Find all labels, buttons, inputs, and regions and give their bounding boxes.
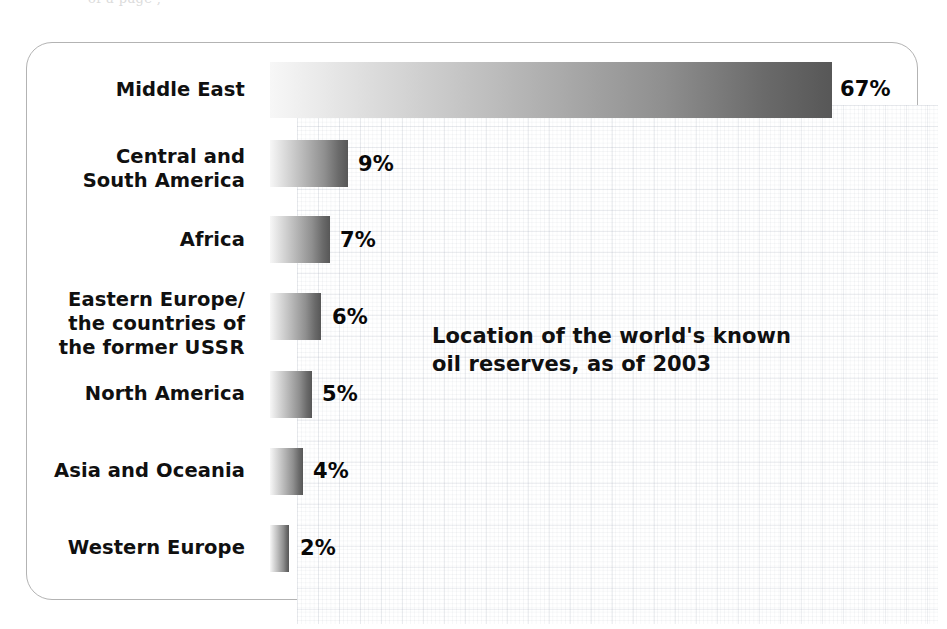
bar-value-label: 9% [358,152,394,176]
bar-value-label: 4% [313,459,349,483]
category-label: Eastern Europe/ the countries of the for… [0,288,245,360]
clipped-page-text: of a page , [0,0,947,7]
chart-annotation: Location of the world's known oil reserv… [432,322,852,378]
bar [270,525,289,572]
bar [270,62,832,118]
bar [270,293,321,340]
category-label: Middle East [0,78,245,102]
category-label: Western Europe [0,536,245,560]
bar-value-label: 7% [340,228,376,252]
bar-value-label: 5% [322,382,358,406]
category-label: Central and South America [0,145,245,193]
category-label: North America [0,382,245,406]
bar-value-label: 67% [840,77,891,101]
bar [270,448,303,495]
bar-value-label: 2% [300,536,336,560]
bar-value-label: 6% [332,305,368,329]
bar [270,371,312,418]
bar [270,216,330,263]
bar [270,140,348,187]
category-label: Africa [0,228,245,252]
category-label: Asia and Oceania [0,459,245,483]
